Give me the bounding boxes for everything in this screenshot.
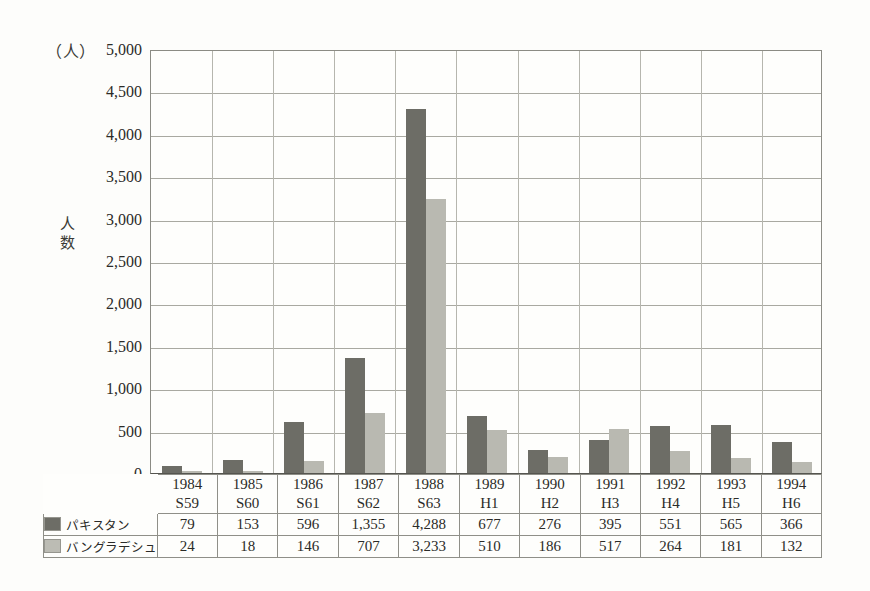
bar-pakistan xyxy=(467,416,487,473)
table-value-cell: 153 xyxy=(217,514,277,536)
table-value-cell: 596 xyxy=(278,514,338,536)
table-year-header: 1984S59 xyxy=(157,475,217,514)
era-label: H6 xyxy=(762,494,821,513)
y-tick-label: 1,500 xyxy=(50,338,148,356)
bar-pakistan xyxy=(528,450,548,473)
y-tick-label: 5,000 xyxy=(50,41,148,59)
table-row: バングラデシュ24181467073,233510186517264181132 xyxy=(44,536,822,558)
bar-bangladesh xyxy=(731,458,751,473)
era-label: H4 xyxy=(641,494,700,513)
year-label: 1989 xyxy=(460,475,519,494)
bar-pakistan xyxy=(406,109,426,473)
bar-pakistan xyxy=(223,460,243,473)
table-value-cell: 366 xyxy=(761,514,821,536)
table-value-cell: 264 xyxy=(640,536,700,558)
year-label: 1986 xyxy=(278,475,337,494)
table-value-cell: 3,233 xyxy=(399,536,460,558)
bar-pakistan xyxy=(772,442,792,473)
table-value-cell: 510 xyxy=(459,536,519,558)
bar-group xyxy=(212,51,273,473)
bar-group xyxy=(151,51,212,473)
table-value-cell: 565 xyxy=(701,514,761,536)
bar-bangladesh xyxy=(487,430,507,473)
table-header-row: 1984S591985S601986S611987S621988S631989H… xyxy=(44,475,822,514)
table-year-header: 1988S63 xyxy=(399,475,460,514)
bar-bangladesh xyxy=(426,199,446,473)
table-value-cell: 79 xyxy=(157,514,217,536)
bar-group xyxy=(518,51,579,473)
plot-area xyxy=(150,50,822,474)
year-label: 1985 xyxy=(218,475,277,494)
era-label: S63 xyxy=(399,494,459,513)
bar-group xyxy=(456,51,517,473)
legend-label: パキスタン xyxy=(66,518,130,533)
y-tick-label: 2,500 xyxy=(50,253,148,271)
table-year-header: 1989H1 xyxy=(459,475,519,514)
bar-group xyxy=(334,51,395,473)
table-value-cell: 146 xyxy=(278,536,338,558)
legend-swatch-icon xyxy=(44,517,61,531)
table-year-header: 1994H6 xyxy=(761,475,821,514)
era-label: H1 xyxy=(460,494,519,513)
table-value-cell: 24 xyxy=(157,536,217,558)
bar-pakistan xyxy=(162,466,182,473)
bar-bangladesh xyxy=(670,451,690,473)
bar-pakistan xyxy=(345,358,365,473)
year-label: 1988 xyxy=(399,475,459,494)
table-value-cell: 707 xyxy=(338,536,399,558)
table-value-cell: 395 xyxy=(580,514,640,536)
table-value-cell: 186 xyxy=(520,536,580,558)
year-label: 1994 xyxy=(762,475,821,494)
bar-bangladesh xyxy=(243,471,263,473)
table-year-header: 1993H5 xyxy=(701,475,761,514)
table-year-header: 1991H3 xyxy=(580,475,640,514)
data-table: 1984S591985S601986S611987S621988S631989H… xyxy=(43,474,822,558)
bar-pakistan xyxy=(284,422,304,473)
era-label: S60 xyxy=(218,494,277,513)
bar-bangladesh xyxy=(792,462,812,473)
era-label: S61 xyxy=(278,494,337,513)
y-tick-label: 4,500 xyxy=(50,83,148,101)
table-year-header: 1985S60 xyxy=(217,475,277,514)
table-value-cell: 18 xyxy=(217,536,277,558)
y-tick-label: 500 xyxy=(50,423,148,441)
bar-bangladesh xyxy=(609,429,629,473)
bar-group xyxy=(762,51,823,473)
table-value-cell: 276 xyxy=(520,514,580,536)
bar-group xyxy=(640,51,701,473)
y-tick-label: 4,000 xyxy=(50,126,148,144)
bar-pakistan xyxy=(650,426,670,473)
table-value-cell: 181 xyxy=(701,536,761,558)
table-value-cell: 1,355 xyxy=(338,514,399,536)
year-label: 1991 xyxy=(581,475,640,494)
table-value-cell: 517 xyxy=(580,536,640,558)
bar-group xyxy=(395,51,456,473)
bar-bangladesh xyxy=(182,471,202,473)
table-year-header: 1987S62 xyxy=(338,475,399,514)
bar-pakistan xyxy=(711,425,731,473)
table-corner-cell xyxy=(44,475,158,514)
year-label: 1990 xyxy=(520,475,579,494)
y-tick-label: 1,000 xyxy=(50,380,148,398)
bar-group xyxy=(701,51,762,473)
bar-group xyxy=(273,51,334,473)
year-label: 1993 xyxy=(701,475,760,494)
year-label: 1992 xyxy=(641,475,700,494)
legend-item-pakistan: パキスタン xyxy=(44,514,158,536)
year-label: 1984 xyxy=(158,475,217,494)
bar-group xyxy=(579,51,640,473)
y-tick-label: 3,500 xyxy=(50,168,148,186)
legend-swatch-icon xyxy=(44,539,61,553)
y-tick-label: 2,000 xyxy=(50,295,148,313)
era-label: S59 xyxy=(158,494,217,513)
year-label: 1987 xyxy=(339,475,399,494)
era-label: S62 xyxy=(339,494,399,513)
table-value-cell: 677 xyxy=(459,514,519,536)
era-label: H3 xyxy=(581,494,640,513)
era-label: H2 xyxy=(520,494,579,513)
table-value-cell: 551 xyxy=(640,514,700,536)
y-tick-label: 3,000 xyxy=(50,211,148,229)
bar-pakistan xyxy=(589,440,609,473)
table-value-cell: 132 xyxy=(761,536,821,558)
bar-bangladesh xyxy=(548,457,568,473)
